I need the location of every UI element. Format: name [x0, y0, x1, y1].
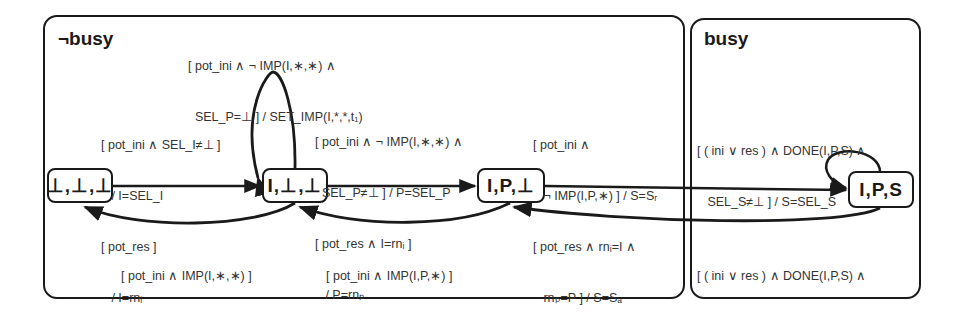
label-s1-to-s0: [ pot_ini ∧ IMP(I,∗,∗) ] [ pot_res ∧ I≠r… — [121, 234, 252, 315]
label-s3-self: [ ( ini ∨ res ) ∧ DONE(I,P,S) ∧ SEL_S≠⊥ … — [697, 109, 866, 228]
label-s2-to-s1: [ pot_ini ∧ IMP(I,P,∗) ] [ pot_res ∧ ( P… — [326, 234, 483, 315]
label-s2-to-s3: [ pot_ini ∧ ¬ IMP(I,P,∗) ] / S=Sᵣ [ pot_… — [533, 103, 657, 315]
label-s3-to-s2: [ ( ini ∨ res ) ∧ DONE(I,P,S) ∧ SEL_S=⊥ … — [697, 234, 880, 315]
